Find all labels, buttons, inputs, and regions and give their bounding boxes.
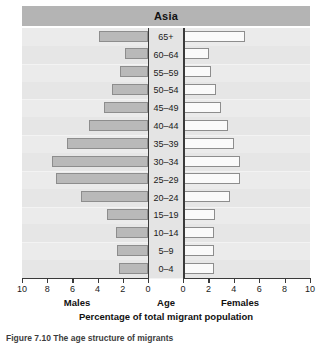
age-group-label: 20–24 [148, 189, 184, 207]
bar-female-15-19 [183, 209, 215, 220]
bar-female-25-29 [183, 173, 240, 184]
age-group-label: 35–39 [148, 135, 184, 153]
x-tick-label-males-6: 6 [70, 284, 75, 294]
bar-male-5-9 [117, 245, 147, 256]
pyramid-row: 65+ [22, 28, 310, 47]
bar-male-0-4 [119, 263, 148, 274]
bar-female-45-49 [183, 102, 221, 113]
chart-plot-area: 65+60–6455–5950–5445–4940–4435–3930–3425… [22, 28, 310, 278]
axis-label-males: Males [64, 297, 90, 308]
bar-male-45-49 [104, 102, 148, 113]
bar-female-50-54 [183, 84, 216, 95]
bar-male-65+ [99, 31, 148, 42]
bar-female-5-9 [183, 245, 213, 256]
pyramid-row: 55–59 [22, 64, 310, 83]
x-tick-females-4 [234, 278, 235, 283]
bar-female-55-59 [183, 66, 211, 77]
figure-caption: Figure 7.10 The age structure of migrant… [6, 333, 326, 343]
x-tick-label-females-0: 0 [180, 284, 185, 294]
pyramid-row: 50–54 [22, 82, 310, 101]
x-tick-label-males-0: 0 [145, 284, 150, 294]
x-tick-label-females-8: 8 [282, 284, 287, 294]
x-tick-males-4 [98, 278, 99, 283]
bar-male-40-44 [89, 120, 148, 131]
x-tick-males-2 [123, 278, 124, 283]
population-pyramid-figure: Asia 65+60–6455–5950–5445–4940–4435–3930… [0, 0, 331, 344]
pyramid-row: 0–4 [22, 260, 310, 279]
x-tick-males-8 [47, 278, 48, 283]
pyramid-row: 40–44 [22, 117, 310, 136]
bar-female-35-39 [183, 138, 234, 149]
x-axis-males [22, 278, 148, 285]
x-tick-label-males-10: 10 [17, 284, 27, 294]
pyramid-row: 45–49 [22, 99, 310, 118]
pyramid-row: 30–34 [22, 153, 310, 172]
bar-female-60-64 [183, 48, 208, 59]
age-group-label: 10–14 [148, 224, 184, 242]
bar-male-20-24 [81, 191, 148, 202]
age-group-label: 65+ [148, 28, 184, 46]
bar-male-35-39 [67, 138, 147, 149]
x-tick-females-8 [285, 278, 286, 283]
x-tick-females-10 [310, 278, 311, 283]
bar-male-30-34 [52, 156, 147, 167]
x-tick-label-males-2: 2 [120, 284, 125, 294]
x-axis-females [183, 278, 310, 285]
bar-male-55-59 [120, 66, 148, 77]
x-tick-label-females-10: 10 [305, 284, 315, 294]
bar-female-65+ [183, 31, 245, 42]
bar-male-60-64 [125, 48, 148, 59]
pyramid-row: 20–24 [22, 189, 310, 208]
axis-label-females: Females [221, 297, 259, 308]
center-axis-left-line [148, 28, 149, 278]
x-tick-label-males-4: 4 [95, 284, 100, 294]
center-axis-right-line [183, 28, 184, 278]
pyramid-row: 35–39 [22, 135, 310, 154]
age-group-label: 0–4 [148, 260, 184, 278]
bar-female-40-44 [183, 120, 227, 131]
x-tick-label-females-6: 6 [257, 284, 262, 294]
x-tick-males-0 [148, 278, 149, 283]
age-group-label: 5–9 [148, 242, 184, 260]
bar-female-20-24 [183, 191, 230, 202]
age-group-label: 45–49 [148, 99, 184, 117]
x-tick-label-males-8: 8 [45, 284, 50, 294]
age-group-label: 50–54 [148, 82, 184, 100]
bar-male-50-54 [112, 84, 147, 95]
bar-male-15-19 [107, 209, 147, 220]
bar-male-25-29 [56, 173, 148, 184]
age-group-label: 40–44 [148, 117, 184, 135]
bar-female-0-4 [183, 263, 213, 274]
x-axis-title: Percentage of total migrant population [79, 311, 253, 322]
x-tick-label-females-4: 4 [231, 284, 236, 294]
x-tick-females-2 [208, 278, 209, 283]
x-tick-label-females-2: 2 [206, 284, 211, 294]
pyramid-row: 25–29 [22, 171, 310, 190]
bar-female-10-14 [183, 227, 213, 238]
x-tick-males-6 [72, 278, 73, 283]
x-tick-males-10 [22, 278, 23, 283]
axis-label-age: Age [157, 297, 175, 308]
x-tick-females-6 [259, 278, 260, 283]
x-tick-females-0 [183, 278, 184, 283]
chart-title: Asia [154, 10, 178, 22]
pyramid-row: 15–19 [22, 207, 310, 226]
chart-title-bar: Asia [22, 6, 310, 26]
pyramid-row: 5–9 [22, 242, 310, 261]
bar-female-30-34 [183, 156, 240, 167]
age-group-label: 30–34 [148, 153, 184, 171]
age-group-label: 55–59 [148, 64, 184, 82]
age-group-label: 60–64 [148, 46, 184, 64]
pyramid-row: 10–14 [22, 224, 310, 243]
age-group-label: 15–19 [148, 207, 184, 225]
age-group-label: 25–29 [148, 171, 184, 189]
bar-male-10-14 [116, 227, 147, 238]
pyramid-row: 60–64 [22, 46, 310, 65]
